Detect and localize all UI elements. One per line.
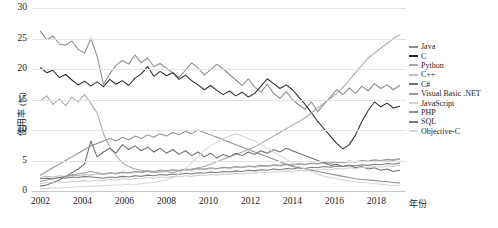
legend-label: Java [421, 42, 435, 51]
gridline [32, 69, 406, 70]
legend-swatch-icon [409, 121, 418, 123]
plot-area: 051015202530 [32, 8, 406, 191]
y-axis-tick-label: 15 [18, 95, 28, 105]
legend-label: C++ [421, 70, 435, 79]
x-axis-title: 年份 [409, 197, 427, 210]
legend: JavaCPythonC++C#Visual Basic .NETJavaScr… [409, 42, 497, 136]
legend-item-javascript[interactable]: JavaScript [409, 98, 497, 107]
x-axis-tick-label: 2002 [31, 197, 50, 207]
y-axis-tick-label: 10 [18, 125, 28, 135]
legend-swatch-icon [409, 64, 418, 66]
legend-item-visual-basic-net[interactable]: Visual Basic .NET [409, 89, 497, 98]
x-axis-tick-label: 2016 [325, 197, 344, 207]
legend-label: Python [421, 61, 444, 70]
gridline [32, 100, 406, 101]
legend-item-python[interactable]: Python [409, 61, 497, 70]
y-axis-tick-label: 30 [18, 3, 28, 13]
legend-label: JavaScript [421, 99, 454, 108]
gridline [32, 130, 406, 131]
legend-swatch-icon [409, 93, 418, 95]
gridline [32, 8, 406, 9]
legend-label: C# [421, 80, 430, 89]
legend-label: C [421, 52, 426, 61]
y-axis-tick-label: 0 [22, 186, 27, 196]
legend-swatch-icon [409, 130, 418, 132]
legend-label: Objective-C [421, 127, 460, 136]
y-axis-tick-label: 25 [18, 34, 28, 44]
legend-swatch-icon [409, 83, 418, 85]
legend-item-php[interactable]: PHP [409, 108, 497, 117]
gridlines [32, 8, 406, 191]
legend-item-objective-c[interactable]: Objective-C [409, 127, 497, 136]
legend-item-c[interactable]: C [409, 51, 497, 60]
y-axis-tick-label: 5 [22, 156, 27, 166]
legend-swatch-icon [409, 74, 418, 76]
legend-swatch-icon [409, 46, 418, 48]
usage-rate-line-chart: 使用率 (%) 051015202530 2002200420062008201… [0, 0, 498, 228]
legend-label: Visual Basic .NET [421, 89, 481, 98]
x-axis-tick-label: 2018 [367, 197, 386, 207]
x-axis-tick-label: 2014 [283, 197, 302, 207]
legend-label: SQL [421, 117, 436, 126]
legend-swatch-icon [409, 102, 418, 104]
x-axis-tick-label: 2006 [115, 197, 134, 207]
legend-swatch-icon [409, 55, 418, 57]
x-axis-tick-label: 2012 [241, 197, 260, 207]
gridline [32, 39, 406, 40]
x-axis: 200220042006200820102012201420162018 [32, 191, 406, 211]
legend-swatch-icon [409, 111, 418, 113]
y-axis-tick-label: 20 [18, 64, 28, 74]
legend-item-sql[interactable]: SQL [409, 117, 497, 126]
x-axis-tick-label: 2010 [199, 197, 218, 207]
legend-item-c[interactable]: C++ [409, 70, 497, 79]
legend-item-c[interactable]: C# [409, 80, 497, 89]
x-axis-tick-label: 2008 [157, 197, 176, 207]
x-axis-tick-label: 2004 [73, 197, 92, 207]
legend-item-java[interactable]: Java [409, 42, 497, 51]
gridline [32, 161, 406, 162]
legend-label: PHP [421, 108, 436, 117]
